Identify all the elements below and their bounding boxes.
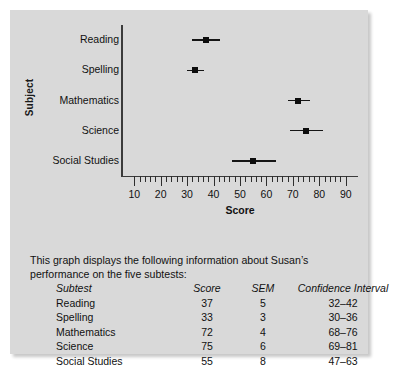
x-axis-minor-tick [245,176,246,182]
dot-plot-chart: Subject ReadingSpellingMathematicsScienc… [10,10,368,225]
cell-confidence-interval: 30–36 [288,311,394,323]
cell-sem: 8 [242,355,284,367]
x-axis-tick-label: 10 [122,188,146,200]
category-label: Science [0,124,119,136]
ci-cap-upper [203,70,205,72]
cell-sem: 5 [242,297,284,309]
x-axis-minor-tick [140,176,141,182]
x-axis-minor-tick [314,176,315,182]
ci-cap-upper [219,39,221,41]
x-axis-minor-tick [272,176,273,182]
x-axis-major-tick [346,176,347,186]
cell-score: 75 [184,340,230,352]
cell-confidence-interval: 32–42 [288,297,394,309]
x-axis-major-tick [214,176,215,186]
cell-confidence-interval: 47–63 [288,355,394,367]
x-axis-major-tick [134,176,135,186]
x-axis-minor-tick [335,176,336,182]
table-row: Reading37532–42 [56,297,356,312]
cell-subtest: Science [56,340,176,352]
x-axis-minor-tick [155,176,156,182]
x-axis-tick-label: 80 [307,188,331,200]
score-marker [303,128,309,134]
ci-cap-upper [274,160,276,162]
x-axis-minor-tick [150,176,151,182]
x-axis-minor-tick [251,176,252,182]
x-axis-minor-tick [177,176,178,182]
x-axis-tick-label: 60 [254,188,278,200]
table-row: Spelling33330–36 [56,311,356,326]
x-axis-minor-tick [288,176,289,182]
cell-sem: 6 [242,340,284,352]
cell-sem: 4 [242,326,284,338]
x-axis-minor-tick [182,176,183,182]
x-axis-minor-tick [309,176,310,182]
x-axis-major-tick [266,176,267,186]
ci-cap-lower [192,39,194,41]
cell-confidence-interval: 69–81 [288,340,394,352]
x-axis-minor-tick [203,176,204,182]
x-axis-minor-tick [224,176,225,182]
cell-score: 33 [184,311,230,323]
category-label: Mathematics [0,94,119,106]
x-axis-tick-label: 40 [202,188,226,200]
x-axis-major-tick [319,176,320,186]
x-axis-major-tick [187,176,188,186]
column-header-subtest: Subtest [56,282,176,294]
x-axis-minor-tick [325,176,326,182]
x-axis-minor-tick [219,176,220,182]
score-marker [192,67,198,73]
x-axis-minor-tick [229,176,230,182]
cell-score: 55 [184,355,230,367]
ci-cap-lower [288,100,290,102]
x-axis-minor-tick [192,176,193,182]
x-axis-minor-tick [166,176,167,182]
x-axis-minor-tick [340,176,341,182]
ci-cap-upper [322,130,324,132]
subtest-results-table: Subtest Score SEM Confidence Interval Re… [56,282,356,370]
ci-cap-lower [290,130,292,132]
cell-score: 37 [184,297,230,309]
x-axis-tick-label: 30 [175,188,199,200]
cell-subtest: Mathematics [56,326,176,338]
x-axis-major-tick [293,176,294,186]
cell-subtest: Spelling [56,311,176,323]
caption-text: This graph displays the following inform… [30,253,352,281]
x-axis-minor-tick [277,176,278,182]
x-axis-minor-tick [235,176,236,182]
ci-cap-upper [309,100,311,102]
x-axis-minor-tick [145,176,146,182]
score-marker [250,158,256,164]
cell-subtest: Social Studies [56,355,176,367]
category-label: Spelling [0,63,119,75]
x-axis-tick-label: 20 [149,188,173,200]
cell-subtest: Reading [56,297,176,309]
figure-panel: Subject ReadingSpellingMathematicsScienc… [10,10,368,354]
x-axis-minor-tick [298,176,299,182]
column-header-sem: SEM [242,282,284,294]
column-header-confidence-interval: Confidence Interval [288,282,394,294]
x-axis-tick-label: 90 [334,188,358,200]
category-label: Reading [0,33,119,45]
table-row: Social Studies55847–63 [56,355,356,370]
table-row: Science75669–81 [56,340,356,355]
table-row: Mathematics72468–76 [56,326,356,341]
x-axis-major-tick [240,176,241,186]
cell-confidence-interval: 68–76 [288,326,394,338]
x-axis-minor-tick [282,176,283,182]
category-label: Social Studies [0,154,119,166]
x-axis-minor-tick [171,176,172,182]
cell-score: 72 [184,326,230,338]
cell-sem: 3 [242,311,284,323]
x-axis-major-tick [161,176,162,186]
ci-cap-lower [232,160,234,162]
ci-cap-lower [187,70,189,72]
x-axis-minor-tick [303,176,304,182]
x-axis-title: Score [121,204,359,216]
x-axis-tick-label: 70 [281,188,305,200]
x-axis-minor-tick [208,176,209,182]
x-axis-minor-tick [198,176,199,182]
x-axis-minor-tick [261,176,262,182]
score-marker [203,37,209,43]
table-body: Reading37532–42Spelling33330–36Mathemati… [56,297,356,370]
